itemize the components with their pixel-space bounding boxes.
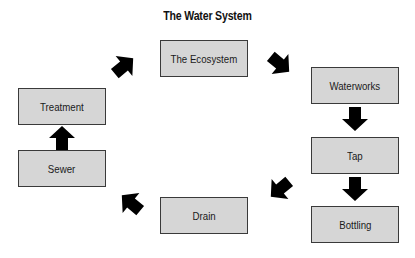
node-label: Waterworks bbox=[330, 80, 381, 92]
node-label: Tap bbox=[347, 150, 363, 162]
arrow-down-icon bbox=[341, 175, 369, 203]
node-bottling: Bottling bbox=[311, 206, 399, 243]
node-tap: Tap bbox=[311, 137, 399, 174]
water-system-diagram: The Water System The Ecosystem Waterwork… bbox=[0, 0, 415, 258]
node-drain: Drain bbox=[160, 197, 248, 234]
node-label: Sewer bbox=[48, 163, 75, 175]
node-treatment: Treatment bbox=[18, 88, 106, 125]
node-label: The Ecosystem bbox=[171, 53, 238, 65]
node-waterworks: Waterworks bbox=[311, 67, 399, 104]
diagram-title: The Water System bbox=[25, 9, 390, 23]
node-sewer: Sewer bbox=[18, 150, 106, 187]
node-label: Treatment bbox=[40, 101, 84, 113]
arrow-down-icon bbox=[341, 105, 369, 133]
node-label: Drain bbox=[192, 210, 215, 222]
arrow-up-left-icon bbox=[117, 189, 145, 217]
arrow-up-right-icon bbox=[110, 52, 138, 80]
arrow-down-right-icon bbox=[266, 50, 294, 78]
arrow-up-icon bbox=[48, 124, 76, 152]
node-ecosystem: The Ecosystem bbox=[160, 40, 248, 77]
arrow-down-left-icon bbox=[266, 175, 294, 203]
node-label: Bottling bbox=[339, 219, 371, 231]
